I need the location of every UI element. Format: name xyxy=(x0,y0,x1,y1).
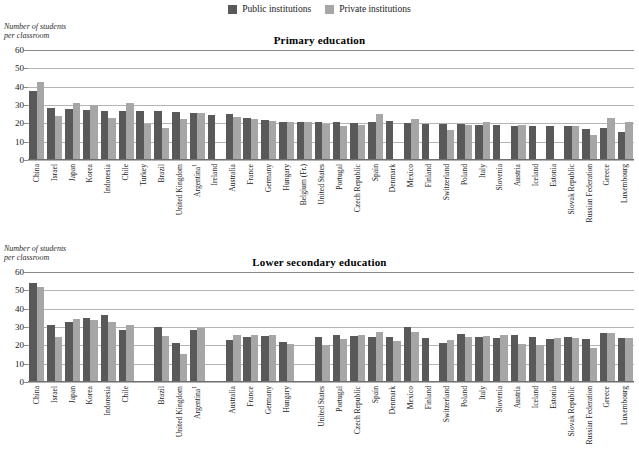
bar-public xyxy=(600,333,607,382)
legend-label-public: Public institutions xyxy=(242,4,311,14)
bar-private xyxy=(162,128,169,160)
y-tick-label-10: 10 xyxy=(15,137,24,147)
bar-private xyxy=(233,117,240,160)
bar-public xyxy=(297,122,304,160)
x-label-cell: Israel xyxy=(46,384,64,470)
bar-public xyxy=(529,337,536,382)
bar-private xyxy=(90,320,97,382)
bar-public xyxy=(457,124,464,160)
bar-public xyxy=(136,111,143,160)
bar-public xyxy=(190,330,197,382)
legend-label-private: Private institutions xyxy=(339,4,411,14)
bar-public xyxy=(119,330,126,382)
bar-public xyxy=(279,122,286,161)
x-axis-label: Czech Republic xyxy=(354,386,362,434)
gridline-0 xyxy=(28,160,634,161)
bar-private xyxy=(269,335,276,382)
bar-group xyxy=(492,50,510,160)
x-label-cell: Italy xyxy=(474,384,492,470)
x-label-cell: Italy xyxy=(474,162,492,248)
x-label-cell: Austria xyxy=(509,384,527,470)
bar-public xyxy=(422,124,429,160)
x-axis-label: Greece xyxy=(604,164,612,186)
x-label-cell xyxy=(206,384,224,470)
x-axis-label: Denmark xyxy=(390,386,398,414)
bar-public xyxy=(83,318,90,382)
x-label-cell: Czech Republic xyxy=(349,162,367,248)
x-axis-label: Brazil xyxy=(158,386,166,405)
bar-public xyxy=(546,126,553,160)
bar-public xyxy=(29,283,36,382)
x-label-cell: United States xyxy=(313,162,331,248)
bar-group xyxy=(563,50,581,160)
bar-public xyxy=(315,122,322,160)
x-label-cell: United Kingdom xyxy=(171,162,189,248)
bar-group xyxy=(28,50,46,160)
x-axis-label: Brazil xyxy=(158,164,166,183)
bar-group xyxy=(99,50,117,160)
bar-private xyxy=(287,122,294,160)
y-tick-mark-0 xyxy=(24,160,28,161)
bar-public xyxy=(386,121,393,160)
bar-private xyxy=(340,339,347,382)
x-label-cell: China xyxy=(28,162,46,248)
legend-item-public: Public institutions xyxy=(228,4,311,14)
bar-private xyxy=(233,335,240,382)
bar-group xyxy=(135,272,153,382)
x-axis-label: Portugal xyxy=(336,164,344,190)
bar-public xyxy=(261,336,268,382)
bar-group xyxy=(367,272,385,382)
bar-group xyxy=(331,50,349,160)
x-label-cell: Indonesia xyxy=(99,384,117,470)
bar-group xyxy=(81,50,99,160)
bar-group xyxy=(206,272,224,382)
x-label-cell: Korea xyxy=(81,162,99,248)
bar-group xyxy=(278,50,296,160)
x-label-cell: Mexico xyxy=(402,384,420,470)
bar-private xyxy=(358,125,365,160)
bar-private xyxy=(500,335,507,382)
bar-group xyxy=(563,272,581,382)
bar-group xyxy=(616,50,634,160)
x-axis-label: Austria xyxy=(514,386,522,408)
chart-title-lower-secondary: Lower secondary education xyxy=(0,256,639,268)
bar-group xyxy=(206,50,224,160)
x-axis-label: Spain xyxy=(372,164,380,181)
x-label-cell: Slovenia xyxy=(492,384,510,470)
bar-private xyxy=(287,344,294,383)
x-label-cell: Argentina1 xyxy=(188,162,206,248)
bar-group xyxy=(260,272,278,382)
x-axis-label: United States xyxy=(318,164,326,205)
bar-public xyxy=(279,342,286,382)
bar-group xyxy=(616,272,634,382)
bar-private xyxy=(447,340,454,382)
x-axis-label: Mexico xyxy=(408,164,416,187)
bar-public xyxy=(350,336,357,382)
x-axis-label: Denmark xyxy=(390,164,398,192)
x-axis-label: Ireland xyxy=(211,164,219,186)
x-axis-label: Finland xyxy=(425,386,433,409)
bar-private xyxy=(37,82,44,160)
y-tick-label-50: 50 xyxy=(15,285,24,295)
y-tick-label-40: 40 xyxy=(15,304,24,314)
x-axis-label: France xyxy=(247,164,255,185)
bar-private xyxy=(126,103,133,160)
bar-private xyxy=(340,126,347,160)
x-axis-label: Poland xyxy=(461,386,469,407)
bar-public xyxy=(29,91,36,160)
x-axis-label: Australia xyxy=(229,164,237,192)
x-axis-label: Indonesia xyxy=(104,164,112,194)
bar-group xyxy=(420,50,438,160)
x-label-cell: Brazil xyxy=(153,162,171,248)
bar-private xyxy=(465,337,472,382)
x-label-cell: Czech Republic xyxy=(349,384,367,470)
x-label-cell: Slovenia xyxy=(492,162,510,248)
chart-legend: Public institutions Private institutions xyxy=(0,4,639,14)
bar-private xyxy=(572,126,579,160)
axis-baseline xyxy=(28,381,634,382)
x-label-cell: United Kingdom xyxy=(171,384,189,470)
bar-public xyxy=(226,114,233,160)
bar-group xyxy=(295,50,313,160)
bar-group xyxy=(64,50,82,160)
bar-private xyxy=(304,122,311,160)
